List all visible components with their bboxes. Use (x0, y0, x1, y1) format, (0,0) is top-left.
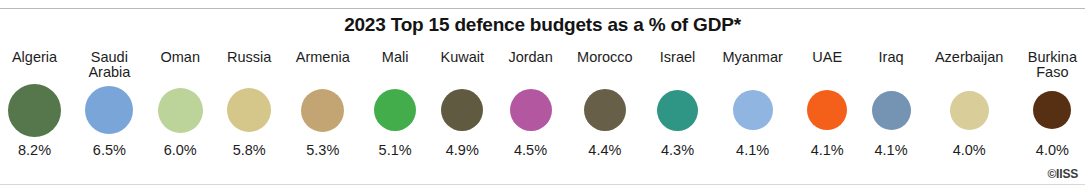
data-point: Azerbaijan4.0% (935, 50, 1004, 170)
value-bubble (441, 89, 483, 131)
value-bubble (950, 91, 989, 130)
data-point: Burkina Faso4.0% (1028, 50, 1077, 170)
bubble-slot (584, 82, 626, 138)
value-bubble (584, 89, 626, 131)
bottom-divider (0, 184, 1085, 185)
value-bubble (872, 91, 911, 130)
bubble-slot (807, 82, 847, 138)
category-label: Myanmar (722, 50, 782, 82)
data-point: Mali5.1% (374, 50, 416, 170)
value-label: 4.0% (1036, 142, 1069, 158)
category-label: Azerbaijan (935, 50, 1004, 82)
category-label: Jordan (508, 50, 552, 82)
value-label: 4.0% (953, 142, 986, 158)
value-bubble (1033, 91, 1071, 129)
chart-title: 2023 Top 15 defence budgets as a % of GD… (0, 14, 1085, 36)
bubble-slot (158, 82, 203, 138)
data-point: Saudi Arabia6.5% (85, 50, 133, 170)
data-point: Armenia5.3% (296, 50, 350, 170)
category-label: Algeria (12, 50, 57, 82)
category-label: Morocco (577, 50, 633, 82)
bubble-slot (85, 82, 133, 138)
value-label: 4.4% (588, 142, 621, 158)
value-label: 4.1% (811, 142, 844, 158)
bubble-slot (657, 82, 698, 138)
bubble-slot (872, 82, 911, 138)
value-label: 4.1% (736, 142, 769, 158)
category-label: Russia (227, 50, 271, 82)
top-divider (0, 8, 1085, 9)
data-point: Iraq4.1% (872, 50, 911, 170)
data-point: Kuwait4.9% (440, 50, 484, 170)
bubble-slot (301, 82, 344, 138)
value-label: 5.1% (379, 142, 412, 158)
data-point: Israel4.3% (657, 50, 698, 170)
bubble-slot (1033, 82, 1071, 138)
data-point: Algeria8.2% (8, 50, 61, 170)
value-label: 4.1% (875, 142, 908, 158)
value-bubble (374, 89, 416, 131)
value-label: 5.8% (233, 142, 266, 158)
data-point: Russia5.8% (227, 50, 271, 170)
value-label: 5.3% (306, 142, 339, 158)
copyright-credit: ©IISS (1047, 167, 1078, 181)
value-bubble (733, 90, 773, 130)
value-bubble (807, 90, 847, 130)
value-label: 4.3% (661, 142, 694, 158)
value-bubble (8, 84, 61, 137)
category-label: Iraq (879, 50, 904, 82)
defence-budget-infographic: 2023 Top 15 defence budgets as a % of GD… (0, 0, 1085, 185)
value-label: 6.0% (164, 142, 197, 158)
bubble-slot (374, 82, 416, 138)
category-label: Oman (160, 50, 200, 82)
value-label: 6.5% (93, 142, 126, 158)
category-label: Kuwait (440, 50, 484, 82)
category-label: UAE (812, 50, 842, 82)
value-bubble (301, 89, 344, 132)
value-label: 4.5% (514, 142, 547, 158)
data-point: Morocco4.4% (577, 50, 633, 170)
category-label: Armenia (296, 50, 350, 82)
value-bubble (85, 86, 133, 134)
value-bubble (657, 90, 698, 131)
value-label: 8.2% (18, 142, 51, 158)
data-point: UAE4.1% (807, 50, 847, 170)
bubble-slot (950, 82, 989, 138)
bubble-slot (733, 82, 773, 138)
bubble-slot (8, 82, 61, 138)
bubble-slot (441, 82, 483, 138)
value-label: 4.9% (446, 142, 479, 158)
category-label: Mali (382, 50, 409, 82)
bubble-slot (227, 82, 271, 138)
category-label: Burkina Faso (1028, 50, 1077, 82)
category-label: Saudi Arabia (88, 50, 130, 82)
value-bubble (158, 88, 203, 133)
data-point: Oman6.0% (158, 50, 203, 170)
bubble-chart-plot: Algeria8.2%Saudi Arabia6.5%Oman6.0%Russi… (8, 50, 1077, 170)
data-point: Jordan4.5% (508, 50, 552, 170)
data-point: Myanmar4.1% (722, 50, 782, 170)
value-bubble (227, 88, 271, 132)
category-label: Israel (660, 50, 695, 82)
value-bubble (510, 89, 552, 131)
bubble-slot (510, 82, 552, 138)
